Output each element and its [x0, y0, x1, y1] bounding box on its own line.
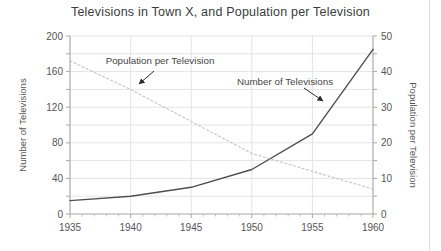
chart-card: Televisions in Town X, and Population pe…	[0, 0, 441, 251]
left-axis-title: Number of Televisions	[17, 78, 28, 172]
right-tick-label: 0	[381, 209, 387, 220]
left-tick-label: 0	[57, 209, 63, 220]
page-right-border	[429, 0, 430, 251]
right-tick-label: 40	[381, 66, 393, 77]
right-tick-label: 30	[381, 102, 393, 113]
annotation-label: Population per Television	[106, 55, 215, 66]
x-tick-label: 1945	[180, 222, 203, 233]
right-axis-title: Population per Television	[408, 82, 419, 187]
x-tick-label: 1950	[241, 222, 264, 233]
chart-plot: 0408012016020001020304050193519401945195…	[0, 0, 441, 251]
annotation-arrow	[139, 71, 154, 84]
left-tick-label: 160	[46, 66, 63, 77]
left-tick-label: 200	[46, 31, 63, 42]
right-tick-label: 10	[381, 173, 393, 184]
x-tick-label: 1960	[362, 222, 385, 233]
right-tick-label: 20	[381, 137, 393, 148]
annotation-arrow	[304, 88, 323, 101]
annotation-label: Number of Televisions	[237, 76, 333, 87]
left-tick-label: 80	[52, 137, 64, 148]
left-tick-label: 40	[52, 173, 64, 184]
x-tick-label: 1935	[59, 222, 82, 233]
right-tick-label: 50	[381, 31, 393, 42]
x-tick-label: 1955	[301, 222, 324, 233]
x-tick-label: 1940	[119, 222, 142, 233]
left-tick-label: 120	[46, 102, 63, 113]
